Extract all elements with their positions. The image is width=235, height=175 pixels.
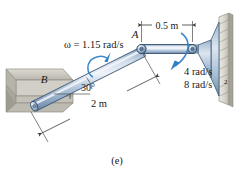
pin-joint-a xyxy=(137,44,146,53)
figure-caption: (e) xyxy=(111,155,123,167)
label-0-5m: 0.5 m xyxy=(156,20,179,31)
link-highlight xyxy=(142,46,193,48)
label-alpha-exponent: 2 xyxy=(224,78,228,86)
pin-b xyxy=(33,105,36,108)
label-point-a: A xyxy=(131,28,139,40)
pin-joint-wall xyxy=(188,45,197,54)
pin-wall-inner xyxy=(191,47,194,50)
label-omega-rod: ω = 1.15 rad/s xyxy=(64,39,124,50)
pin-a-inner xyxy=(140,47,144,51)
label-point-b: B xyxy=(41,73,48,85)
label-30-deg: 30° xyxy=(81,82,95,93)
mechanics-figure: 0.5 m 2 m 30° ω = 1.15 rad/s A B 4 rad/s… xyxy=(0,0,235,175)
label-alpha-link: 8 rad/s xyxy=(184,79,212,90)
link-horizontal xyxy=(141,45,194,54)
wall-edge xyxy=(229,13,233,107)
label-2m: 2 m xyxy=(91,98,107,109)
wall-face xyxy=(219,13,229,105)
link-body xyxy=(141,45,194,54)
wall-support xyxy=(219,13,233,107)
support-top-plate xyxy=(6,69,73,80)
figure-svg: 0.5 m 2 m 30° ω = 1.15 rad/s A B 4 rad/s… xyxy=(0,0,235,175)
label-omega-link: 4 rad/s xyxy=(184,66,212,77)
